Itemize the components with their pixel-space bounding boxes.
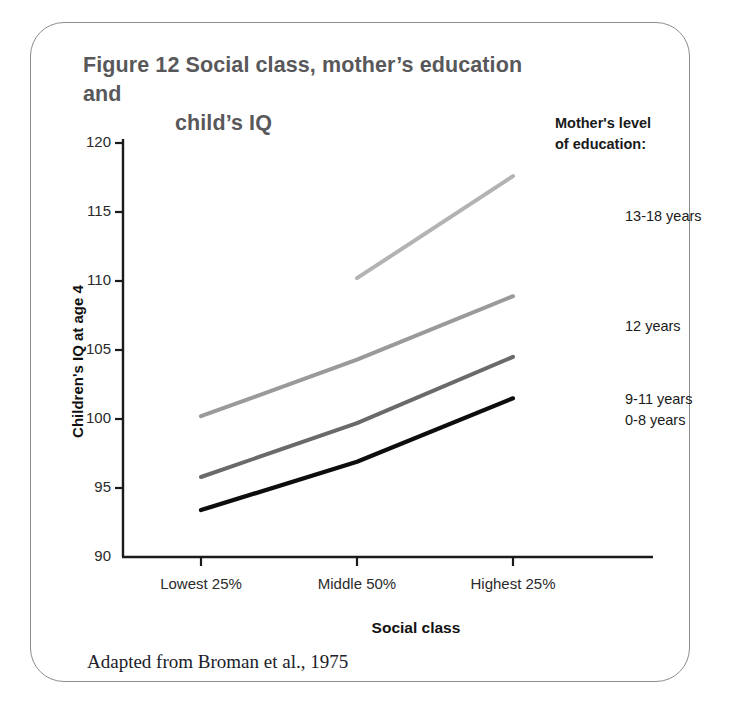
series-line-0-8-years <box>201 398 513 510</box>
line-chart-plot <box>31 23 691 683</box>
source-caption: Adapted from Broman et al., 1975 <box>87 651 348 673</box>
figure-card: Figure 12 Social class, mother’s educati… <box>30 22 690 682</box>
series-lines <box>201 176 513 510</box>
series-line-13-18-years <box>357 176 513 278</box>
series-line-12-years <box>201 296 513 416</box>
axis-ticks <box>115 143 513 566</box>
